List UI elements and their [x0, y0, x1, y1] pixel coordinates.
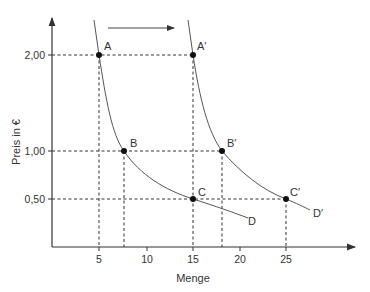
x-axis-title: Menge	[176, 272, 210, 284]
label-curve-D2: D′	[313, 207, 323, 219]
label-B2: B′	[227, 137, 236, 149]
x-tick-15: 15	[187, 253, 199, 265]
label-C: C	[198, 186, 206, 198]
point-B	[121, 148, 127, 154]
y-tick-100: 1,00	[25, 145, 46, 157]
y-tick-050: 0,50	[25, 193, 46, 205]
point-A	[96, 52, 102, 58]
x-tick-25: 25	[280, 253, 292, 265]
label-A2: A′	[197, 40, 206, 52]
x-tick-10: 10	[141, 253, 153, 265]
label-C2: C′	[290, 186, 300, 198]
axes	[52, 18, 355, 247]
point-C	[190, 196, 196, 202]
label-A: A	[104, 40, 112, 52]
x-tick-20: 20	[234, 253, 246, 265]
demand-curve-D	[94, 20, 248, 218]
label-curve-D: D	[248, 215, 256, 227]
x-tick-5: 5	[96, 253, 102, 265]
y-axis-title: Preis in €	[10, 119, 22, 165]
point-C2	[283, 196, 289, 202]
demand-shift-diagram: A B C A′ B′ C′ D D′ 2,00 1,00 0,50 5 10 …	[0, 0, 370, 292]
y-tick-200: 2,00	[25, 49, 46, 61]
label-B: B	[130, 137, 137, 149]
point-B2	[219, 148, 225, 154]
point-A2	[190, 52, 196, 58]
